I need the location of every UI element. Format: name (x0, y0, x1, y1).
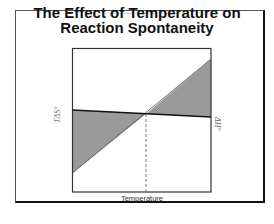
y-axis-label-left: TΔS° (53, 107, 62, 123)
x-axis-label: Temperature (72, 194, 212, 203)
y-axis-label-right: ΔH° (213, 117, 222, 131)
shaded-region-right (146, 59, 211, 117)
chart (0, 0, 274, 224)
